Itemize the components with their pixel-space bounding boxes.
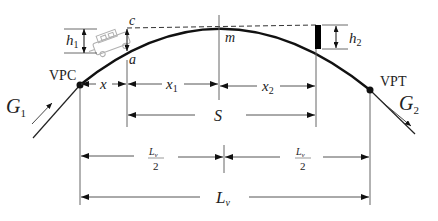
half-l-left-label: Lv 2 xyxy=(148,146,164,172)
svg-text:2: 2 xyxy=(153,160,159,172)
svg-text:Lv: Lv xyxy=(295,146,306,159)
x1-label: x1 xyxy=(165,76,178,94)
vpt-label: VPT xyxy=(380,74,407,89)
vpc-point xyxy=(77,82,84,89)
svg-text:2: 2 xyxy=(300,160,306,172)
point-a-label: a xyxy=(129,52,136,67)
h2-label: h2 xyxy=(349,30,362,48)
crest-vertical-curve-diagram: VPC VPT c a m h1 h2 G1 G2 x x1 x2 S Lv 2… xyxy=(0,0,438,221)
x-label: x xyxy=(99,76,107,92)
half-l-right-label: Lv 2 xyxy=(295,146,311,172)
g2-label: G2 xyxy=(399,92,419,116)
x2-label: x2 xyxy=(261,78,274,96)
point-c-label: c xyxy=(129,13,136,28)
vpt-point xyxy=(367,87,374,94)
object-on-road xyxy=(315,25,321,49)
g1-label: G1 xyxy=(6,95,26,119)
svg-text:Lv: Lv xyxy=(148,146,159,159)
vpc-label: VPC xyxy=(49,68,76,83)
point-m-label: m xyxy=(225,30,235,45)
h1-label: h1 xyxy=(66,32,79,50)
diagram-canvas: VPC VPT c a m h1 h2 G1 G2 x x1 x2 S Lv 2… xyxy=(0,0,438,221)
l-label: Lv xyxy=(215,188,230,208)
s-label: S xyxy=(214,107,222,124)
incoming-grade-line xyxy=(33,85,80,138)
